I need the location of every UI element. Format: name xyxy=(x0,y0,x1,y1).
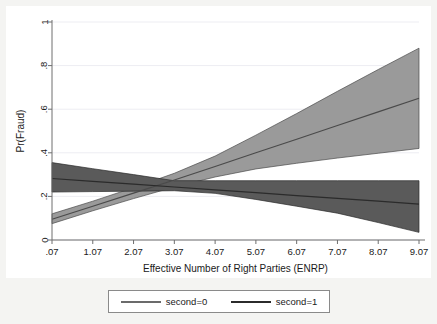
chart-canvas: 0.2.4.6.81 .071.072.073.074.075.076.077.… xyxy=(6,6,431,278)
chart-figure: 0.2.4.6.81 .071.072.073.074.075.076.077.… xyxy=(0,0,437,324)
y-tick-label: 1 xyxy=(39,19,50,24)
x-tick-label: 9.07 xyxy=(410,246,429,257)
x-tick-label: 8.07 xyxy=(369,246,388,257)
y-tick-label: .6 xyxy=(39,105,50,113)
x-tick-label: 7.07 xyxy=(328,246,347,257)
legend-swatch-second-1 xyxy=(231,301,271,303)
legend-swatch-second-0 xyxy=(121,301,161,303)
x-axis-title: Effective Number of Right Parties (ENRP) xyxy=(143,263,328,274)
y-tick-label: .2 xyxy=(39,192,50,200)
y-tick-label: 0 xyxy=(39,237,50,242)
x-tick-label: 2.07 xyxy=(124,246,143,257)
y-tick-label: .4 xyxy=(39,149,50,157)
chart-legend: second=0 second=1 xyxy=(108,290,330,313)
x-tick-label: 6.07 xyxy=(287,246,306,257)
legend-entry-second-1[interactable]: second=1 xyxy=(231,297,317,307)
x-tick-label: 3.07 xyxy=(165,246,184,257)
x-tick-label: .07 xyxy=(45,246,58,257)
legend-label-second-1: second=1 xyxy=(276,297,317,307)
legend-entry-second-0[interactable]: second=0 xyxy=(121,297,207,307)
plot-card: 0.2.4.6.81 .071.072.073.074.075.076.077.… xyxy=(6,6,431,278)
y-tick-label: .8 xyxy=(39,62,50,70)
x-tick-label: 1.07 xyxy=(84,246,103,257)
legend-label-second-0: second=0 xyxy=(166,297,207,307)
x-tick-label: 4.07 xyxy=(206,246,225,257)
x-tick-label: 5.07 xyxy=(247,246,266,257)
y-axis-title: Pr(Fraud) xyxy=(15,110,26,153)
